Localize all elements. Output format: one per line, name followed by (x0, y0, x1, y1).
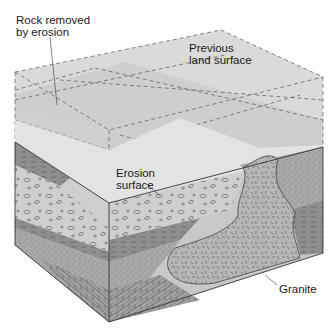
label-rock-removed: Rock removed by erosion (16, 14, 90, 38)
label-erosion-surface: Erosion surface (116, 167, 155, 191)
label-previous-land-surface: Previous land surface (189, 42, 252, 66)
label-granite: Granite (279, 283, 317, 295)
